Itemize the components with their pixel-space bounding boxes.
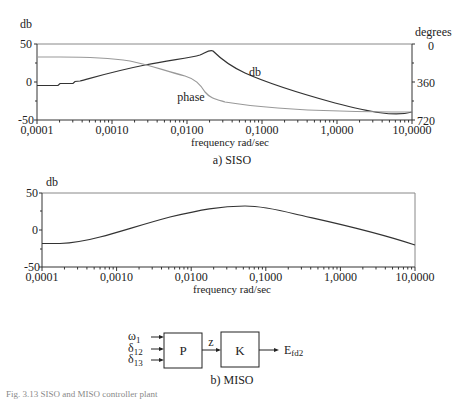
- siso-ylabel-right: degrees: [415, 25, 452, 39]
- siso-ytick-50: 50: [20, 37, 32, 51]
- siso-xtick-labels: 0,0001 0,0010 0,0100 0,1000 1,0000 10,00…: [21, 123, 432, 137]
- arrowhead-icon: [159, 347, 164, 351]
- miso-xtick-label: 0,0001: [26, 270, 59, 284]
- arrowhead-icon: [216, 348, 221, 352]
- siso-ytick-right-0: 0: [428, 39, 434, 53]
- siso-xtick-label: 0,0100: [171, 123, 204, 137]
- siso-xtick-label: 0,1000: [246, 123, 279, 137]
- siso-plot: db degrees 50 0 -50 0 360 720 0,0001 0,0…: [18, 17, 452, 167]
- miso-plot: db 50 0 -50 0,0001 0,0010 0,0100 0,1000 …: [24, 175, 435, 295]
- miso-xtick-label: 0,1000: [249, 270, 282, 284]
- siso-ylabel: db: [20, 17, 32, 31]
- miso-caption: b) MISO: [210, 373, 253, 387]
- siso-xlabel: frequency rad/sec: [191, 136, 269, 148]
- miso-xtick-label: 10,0000: [396, 270, 435, 284]
- miso-xlabel: frequency rad/sec: [193, 283, 271, 295]
- siso-xtick-label: 10,0000: [393, 123, 432, 137]
- miso-xtick-label: 0,0100: [175, 270, 208, 284]
- miso-xtick-label: 0,0010: [100, 270, 133, 284]
- siso-ytick-right-360: 360: [417, 76, 435, 90]
- miso-ylabel: db: [46, 175, 58, 189]
- siso-phase-curve-label: phase: [177, 90, 204, 104]
- figure-canvas: db degrees 50 0 -50 0 360 720 0,0001 0,0…: [0, 0, 463, 399]
- miso-xtick-label: 1,0000: [324, 270, 357, 284]
- block-diagram: P K z ω1 δ12 δ13 Efd2 b) MISO: [128, 329, 303, 387]
- miso-xtick-labels: 0,0001 0,0010 0,0100 0,1000 1,0000 10,00…: [26, 270, 435, 284]
- siso-x-ticks: [37, 120, 412, 124]
- siso-caption: a) SISO: [213, 153, 252, 167]
- output-label-efd2: Efd2: [284, 343, 303, 358]
- block-p-label: P: [179, 343, 186, 358]
- arrowhead-icon: [274, 348, 279, 352]
- arrowhead-icon: [159, 358, 164, 362]
- siso-db-curve-label: db: [249, 65, 261, 79]
- siso-phase-curve: [37, 57, 412, 112]
- figure-caption-footer: Fig. 3.13 SISO and MISO controller plant: [6, 389, 158, 399]
- miso-x-ticks: [42, 267, 415, 271]
- siso-xtick-label: 1,0000: [321, 123, 354, 137]
- miso-db-curve: [42, 206, 415, 245]
- siso-ytick-0: 0: [26, 75, 32, 89]
- arrowhead-icon: [159, 335, 164, 339]
- miso-ytick-50: 50: [26, 186, 38, 200]
- block-k-label: K: [235, 343, 245, 358]
- signal-z-label: z: [208, 335, 213, 349]
- miso-ytick-0: 0: [32, 223, 38, 237]
- siso-xtick-label: 0,0001: [21, 123, 54, 137]
- siso-db-curve: [37, 50, 412, 114]
- siso-xtick-label: 0,0010: [96, 123, 129, 137]
